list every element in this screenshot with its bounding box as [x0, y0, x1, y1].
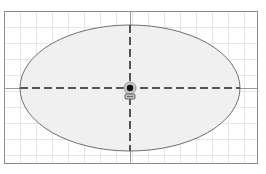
- center-dot-icon[interactable]: [127, 85, 133, 91]
- drawing-canvas[interactable]: [0, 0, 266, 174]
- center-handle[interactable]: [124, 82, 136, 99]
- anchor-lock-icon: [125, 94, 135, 99]
